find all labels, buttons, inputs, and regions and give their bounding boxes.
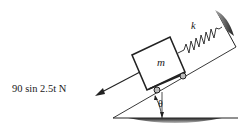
wheel-right (180, 73, 186, 79)
diagram-canvas: 90 sin 2.5t N m k θ (0, 0, 251, 130)
spring-constant-label: k (191, 20, 196, 31)
spring (178, 27, 222, 53)
angle-label: θ (158, 98, 163, 109)
force-arrow (95, 72, 140, 96)
force-label: 90 sin 2.5t N (12, 83, 66, 94)
wheel-left (154, 87, 160, 93)
mass-label: m (157, 56, 165, 68)
ground (113, 118, 238, 123)
diagram-graphics (0, 0, 251, 130)
